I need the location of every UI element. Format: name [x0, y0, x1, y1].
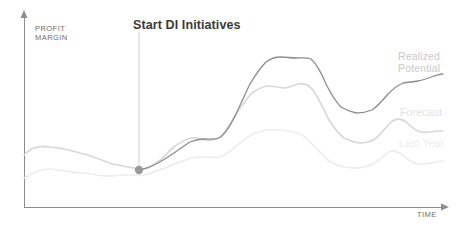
y-axis-arrowhead	[21, 10, 28, 18]
series-label-last-year: Last Year	[399, 137, 444, 149]
series-label-forecast: Forecast	[400, 106, 442, 118]
series-label-realized-potential: Realized Potential	[398, 50, 440, 75]
chart-container: PROFIT MARGIN TIME Start DI Initiatives …	[0, 0, 466, 230]
annotation-title: Start DI Initiatives	[133, 18, 241, 33]
chart-plot-area	[0, 0, 466, 230]
axes-group	[21, 10, 449, 210]
annotation-marker-group	[135, 32, 143, 174]
x-axis-label: TIME	[417, 211, 437, 220]
annotation-marker-dot	[135, 166, 143, 174]
series-line-forecast	[24, 84, 443, 169]
x-axis-arrowhead	[441, 204, 449, 211]
y-axis-label: PROFIT MARGIN	[35, 25, 68, 43]
series-group	[24, 57, 443, 178]
